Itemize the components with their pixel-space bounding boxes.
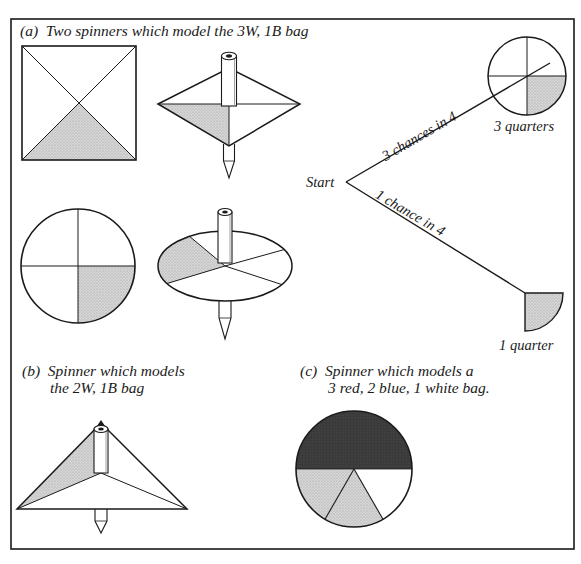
pencil-lead-hole <box>222 210 228 213</box>
outcome-lower-label: 1 quarter <box>499 337 553 354</box>
triangle-edge <box>101 473 187 509</box>
circle-spinner <box>21 209 135 323</box>
caption-a-text: Two spinners which model the 3W, 1B bag <box>46 22 309 39</box>
disc-spinner-top <box>158 209 292 340</box>
square-spinner <box>22 46 136 160</box>
caption-b-label: (b) <box>22 362 40 379</box>
segment-red <box>296 411 412 469</box>
caption-c-line2: 3 red, 2 blue, 1 white bag. <box>328 379 490 396</box>
shaded-quarter <box>22 103 136 160</box>
caption-c-line1: Spinner which models a <box>325 362 474 379</box>
outcome-upper-label: 3 quarters <box>494 118 554 135</box>
pencil-lead-hole <box>98 427 104 430</box>
caption-a-label: (a) <box>20 22 38 39</box>
caption-a: (a) Two spinners which model the 3W, 1B … <box>20 22 308 39</box>
tree-start-label: Start <box>306 174 334 191</box>
triangle-spinner-top <box>17 420 187 533</box>
outcome-lower-quarter <box>525 293 563 331</box>
spinner-figure <box>0 0 581 564</box>
probability-tree <box>346 37 566 331</box>
pencil-lead-hole <box>226 54 232 57</box>
red-blue-white-spinner <box>296 411 412 527</box>
caption-b: (b) Spinner which models the 2W, 1B bag <box>22 362 185 396</box>
caption-b-line2: the 2W, 1B bag <box>50 379 144 396</box>
caption-c: (c) Spinner which models a 3 red, 2 blue… <box>300 362 490 396</box>
caption-c-label: (c) <box>300 362 317 379</box>
diamond-spinner-top <box>158 52 300 178</box>
caption-b-line1: Spinner which models <box>48 362 185 379</box>
